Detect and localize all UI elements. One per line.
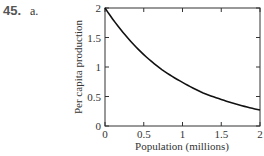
chart: 00.511.5200.511.52 Population (millions)… (0, 0, 264, 156)
y-tick-label: 2 (96, 2, 102, 14)
axis-ticks: 00.511.5200.511.52 (87, 2, 263, 140)
y-tick-label: 1.5 (87, 32, 101, 44)
y-axis-label: Per capita production (72, 19, 84, 114)
data-curve (105, 8, 260, 110)
y-tick-label: 0 (96, 120, 102, 132)
x-tick-label: 1 (180, 128, 186, 140)
x-tick-label: 0.5 (137, 128, 151, 140)
y-tick-label: 0.5 (87, 91, 101, 103)
x-tick-label: 2 (257, 128, 263, 140)
plot-frame (105, 8, 260, 126)
x-tick-label: 1.5 (214, 128, 228, 140)
x-tick-label: 0 (102, 128, 108, 140)
y-tick-label: 1 (96, 61, 102, 73)
x-axis-label: Population (millions) (135, 140, 229, 153)
